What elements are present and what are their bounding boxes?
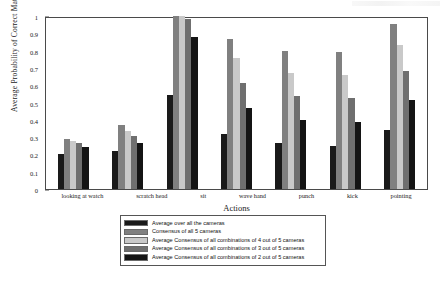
y-tick-label: 0.9 xyxy=(30,31,38,38)
bar xyxy=(246,108,252,189)
y-tick-label: 0.6 xyxy=(30,83,38,90)
y-tick-label: 0.5 xyxy=(30,100,38,107)
bar-group xyxy=(384,18,415,189)
y-tick-label: 0.4 xyxy=(30,117,38,124)
legend-item: Average Consensus of all combinations of… xyxy=(124,236,321,245)
legend-item: Average over all the cameras xyxy=(124,219,321,228)
legend-swatch xyxy=(124,229,148,235)
legend-label: Average Consensus of all combinations of… xyxy=(152,238,304,244)
y-tick-label: 0.1 xyxy=(30,169,38,176)
y-tick-label: 0 xyxy=(35,187,38,194)
y-axis-ticks: 00.10.20.30.40.50.60.70.80.91 xyxy=(0,10,43,197)
bar-group xyxy=(167,18,198,189)
top-right-artifact xyxy=(352,1,440,6)
figure-canvas: Average Probability of Correct Match 00.… xyxy=(0,0,442,282)
legend-swatch xyxy=(124,220,148,226)
bar-group xyxy=(112,18,143,189)
bar xyxy=(191,37,197,189)
bar-groups xyxy=(46,18,427,189)
legend-item: Consensus of all 5 cameras xyxy=(124,228,321,237)
y-tick-label: 1 xyxy=(35,14,38,21)
bar xyxy=(137,143,143,189)
legend-label: Average Consensus of all combinations of… xyxy=(152,246,304,252)
bar-group xyxy=(275,18,306,189)
bar xyxy=(82,147,88,189)
legend-swatch xyxy=(124,237,148,243)
bar-group xyxy=(58,18,89,189)
bar xyxy=(355,122,361,189)
bar-group xyxy=(330,18,361,189)
bar xyxy=(300,120,306,189)
y-tick-label: 0.7 xyxy=(30,65,38,72)
legend-item: Average Consensus of all combinations of… xyxy=(124,245,321,254)
legend-label: Average Consensus of all combinations of… xyxy=(152,255,304,261)
y-tick-label: 0.2 xyxy=(30,152,38,159)
legend-item: Average Consensus of all combinations of… xyxy=(124,253,321,262)
legend-swatch xyxy=(124,254,148,260)
chart-legend: Average over all the camerasConsensus of… xyxy=(120,215,326,266)
legend-label: Average over all the cameras xyxy=(152,221,225,227)
bar-group xyxy=(221,18,252,189)
legend-label: Consensus of all 5 cameras xyxy=(152,229,221,235)
legend-swatch xyxy=(124,246,148,252)
bar xyxy=(409,100,415,189)
plot-area xyxy=(45,17,428,190)
y-tick-label: 0.3 xyxy=(30,135,38,142)
x-axis-label: Actions xyxy=(45,203,428,213)
y-tick-label: 0.8 xyxy=(30,48,38,55)
